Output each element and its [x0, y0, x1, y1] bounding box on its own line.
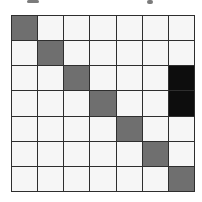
- matrix-cell-r3-c1: [38, 91, 63, 115]
- matrix-cell-r1-c3: [90, 41, 115, 65]
- matrix-cell-r2-c6: [169, 66, 194, 90]
- matrix-cell-r5-c5: [143, 142, 168, 166]
- matrix-cell-r1-c1: [38, 41, 63, 65]
- matrix-cell-r6-c6: [169, 167, 194, 191]
- matrix-cell-r5-c4: [117, 142, 142, 166]
- matrix-cell-r4-c0: [12, 117, 37, 141]
- matrix-cell-r0-c6: [169, 16, 194, 40]
- matrix-cell-r5-c3: [90, 142, 115, 166]
- matrix-cell-r3-c2: [64, 91, 89, 115]
- matrix-cell-r1-c4: [117, 41, 142, 65]
- matrix-cell-r1-c5: [143, 41, 168, 65]
- matrix-cell-r3-c3: [90, 91, 115, 115]
- matrix-cell-r1-c6: [169, 41, 194, 65]
- matrix-cell-r0-c5: [143, 16, 168, 40]
- matrix-cell-r3-c6: [169, 91, 194, 115]
- matrix-cell-r5-c1: [38, 142, 63, 166]
- matrix-cell-r4-c1: [38, 117, 63, 141]
- matrix-cell-r6-c2: [64, 167, 89, 191]
- matrix-cell-r2-c0: [12, 66, 37, 90]
- matrix-cell-r6-c3: [90, 167, 115, 191]
- matrix-cell-r4-c2: [64, 117, 89, 141]
- matrix-cell-r1-c2: [64, 41, 89, 65]
- cropped-text-fragment-right: [147, 0, 153, 4]
- matrix-cell-r6-c1: [38, 167, 63, 191]
- matrix-cell-r4-c6: [169, 117, 194, 141]
- matrix-cell-r2-c2: [64, 66, 89, 90]
- matrix-cell-r6-c4: [117, 167, 142, 191]
- matrix-cell-r2-c1: [38, 66, 63, 90]
- matrix-cell-r3-c4: [117, 91, 142, 115]
- matrix-cell-r2-c5: [143, 66, 168, 90]
- matrix-cell-r5-c0: [12, 142, 37, 166]
- cropped-text-fragment-left: [27, 0, 39, 3]
- matrix-cell-r0-c0: [12, 16, 37, 40]
- matrix-cell-r0-c4: [117, 16, 142, 40]
- matrix-cell-r0-c3: [90, 16, 115, 40]
- matrix-cell-r2-c4: [117, 66, 142, 90]
- matrix-cell-r4-c5: [143, 117, 168, 141]
- matrix-cell-r3-c5: [143, 91, 168, 115]
- matrix-cell-r5-c2: [64, 142, 89, 166]
- matrix-cell-r3-c0: [12, 91, 37, 115]
- matrix-cell-r2-c3: [90, 66, 115, 90]
- matrix-cell-r0-c2: [64, 16, 89, 40]
- matrix-grid: [11, 15, 195, 192]
- matrix-cell-r4-c3: [90, 117, 115, 141]
- matrix-cell-r1-c0: [12, 41, 37, 65]
- matrix-cell-r0-c1: [38, 16, 63, 40]
- matrix-cell-r6-c0: [12, 167, 37, 191]
- matrix-cell-r6-c5: [143, 167, 168, 191]
- matrix-cell-r5-c6: [169, 142, 194, 166]
- matrix-cell-r4-c4: [117, 117, 142, 141]
- matrix-figure: [0, 0, 202, 202]
